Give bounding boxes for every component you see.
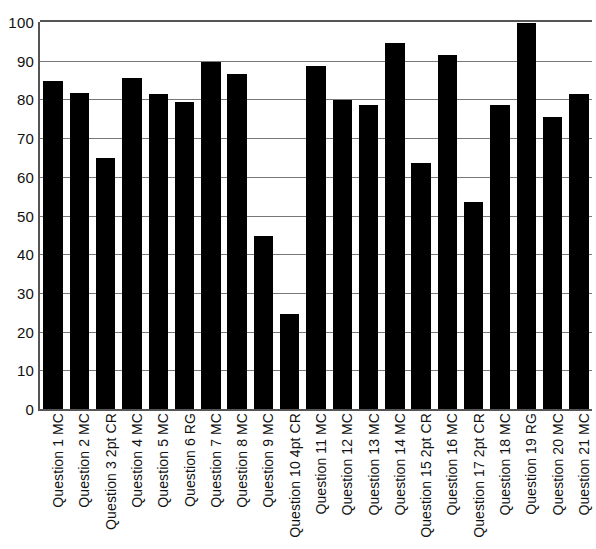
bar <box>175 102 194 409</box>
x-axis-tick-label: Question 21 MC <box>577 413 591 516</box>
x-axis-tick: Question 13 MC <box>353 411 379 549</box>
x-axis-tick-label: Question 17 2pt CR <box>472 413 486 538</box>
bar <box>333 100 352 409</box>
x-axis-tick: Question 11 MC <box>301 411 327 549</box>
y-axis-tick-label: 50 <box>0 208 34 223</box>
x-axis-tick-label: Question 11 MC <box>314 413 328 515</box>
x-axis-tick-label: Question 10 4pt CR <box>288 413 302 538</box>
bar <box>359 105 378 409</box>
bar <box>569 94 588 409</box>
x-axis-tick: Question 9 MC <box>248 411 274 549</box>
x-axis-tick: Question 5 MC <box>143 411 169 549</box>
bar <box>70 93 89 409</box>
x-axis-tick-label: Question 1 MC <box>51 413 65 508</box>
x-axis-tick-label: Question 8 MC <box>235 413 249 508</box>
x-axis-tick-label: Question 20 MC <box>551 413 565 516</box>
x-axis-tick-label: Question 16 MC <box>445 413 459 516</box>
y-axis-tick-label: 70 <box>0 131 34 146</box>
bar <box>438 55 457 409</box>
x-axis-tick-label: Question 13 MC <box>367 413 381 516</box>
x-axis-tick: Question 21 MC <box>564 411 590 549</box>
bar <box>201 62 220 409</box>
x-axis-tick-label: Question 12 MC <box>340 413 354 516</box>
bar <box>227 74 246 409</box>
x-axis-tick-label: Question 2 MC <box>77 413 91 508</box>
bar <box>254 236 273 409</box>
x-axis-tick-label: Question 14 MC <box>393 413 407 516</box>
bar-chart: 0102030405060708090100 Question 1 MCQues… <box>0 0 596 549</box>
x-axis-tick-label: Question 6 RG <box>183 413 197 507</box>
y-axis-tick-label: 10 <box>0 363 34 378</box>
x-axis-tick-label: Question 19 RG <box>524 413 538 515</box>
x-axis-tick-label: Question 7 MC <box>209 413 223 508</box>
x-axis-tick: Question 1 MC <box>38 411 64 549</box>
x-axis-tick: Question 12 MC <box>327 411 353 549</box>
bar <box>149 94 168 409</box>
x-axis: Question 1 MCQuestion 2 MCQuestion 3 2pt… <box>38 411 590 549</box>
x-axis-tick: Question 3 2pt CR <box>91 411 117 549</box>
x-axis-tick: Question 7 MC <box>196 411 222 549</box>
y-axis-tick-label: 80 <box>0 92 34 107</box>
bar <box>411 163 430 409</box>
bar <box>385 43 404 409</box>
x-axis-tick: Question 18 MC <box>485 411 511 549</box>
x-axis-tick-label: Question 18 MC <box>498 413 512 516</box>
y-axis-tick-label: 90 <box>0 53 34 68</box>
bar <box>280 314 299 409</box>
plot-area <box>38 22 592 411</box>
x-axis-tick: Question 14 MC <box>380 411 406 549</box>
bar <box>96 158 115 409</box>
x-axis-tick: Question 8 MC <box>222 411 248 549</box>
x-axis-tick: Question 20 MC <box>537 411 563 549</box>
bars-layer <box>40 22 592 409</box>
x-axis-tick: Question 19 RG <box>511 411 537 549</box>
bar <box>43 81 62 409</box>
x-axis-tick-label: Question 9 MC <box>261 413 275 508</box>
bar <box>517 23 536 409</box>
bar <box>306 66 325 409</box>
x-axis-tick: Question 6 RG <box>169 411 195 549</box>
y-axis: 0102030405060708090100 <box>0 0 34 549</box>
x-axis-tick: Question 2 MC <box>64 411 90 549</box>
y-axis-tick-label: 30 <box>0 285 34 300</box>
y-axis-tick-label: 0 <box>0 402 34 417</box>
y-axis-tick-label: 100 <box>0 15 34 30</box>
x-axis-tick: Question 10 4pt CR <box>275 411 301 549</box>
x-axis-tick: Question 17 2pt CR <box>459 411 485 549</box>
x-axis-tick-label: Question 5 MC <box>156 413 170 508</box>
bar <box>543 117 562 409</box>
x-axis-tick: Question 4 MC <box>117 411 143 549</box>
x-axis-tick-label: Question 15 2pt CR <box>419 413 433 538</box>
bar <box>122 78 141 409</box>
y-axis-tick-label: 40 <box>0 247 34 262</box>
bar <box>464 202 483 409</box>
x-axis-tick: Question 15 2pt CR <box>406 411 432 549</box>
x-axis-tick: Question 16 MC <box>432 411 458 549</box>
bar <box>490 105 509 409</box>
y-axis-tick-label: 60 <box>0 169 34 184</box>
x-axis-tick-label: Question 3 2pt CR <box>104 413 118 530</box>
y-axis-tick-label: 20 <box>0 324 34 339</box>
x-axis-tick-label: Question 4 MC <box>130 413 144 508</box>
